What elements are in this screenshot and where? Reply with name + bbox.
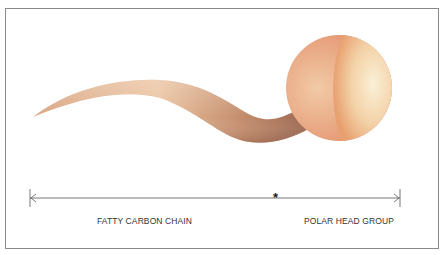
divider-asterisk: * (273, 190, 278, 205)
fatty-carbon-chain-tail (33, 80, 310, 143)
polar-head-group-sphere (286, 30, 400, 150)
polar-head-group-label: POLAR HEAD GROUP (304, 216, 394, 226)
dimension-line (30, 189, 400, 207)
fatty-carbon-chain-label: FATTY CARBON CHAIN (97, 216, 192, 226)
